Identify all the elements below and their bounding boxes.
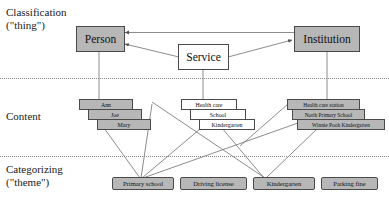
node-person[interactable]: Person xyxy=(76,26,125,52)
node-north-primary-school-label: North Primary School xyxy=(305,112,353,118)
node-service[interactable]: Service xyxy=(178,44,229,70)
diagram-canvas: Classification ("thing") Content Categor… xyxy=(0,0,389,204)
row-label-content: Content xyxy=(6,110,41,123)
row-label-classification-line1: Classification xyxy=(6,6,67,19)
node-kindergarten-theme-label: Kindergarten xyxy=(267,180,302,187)
node-kindergarten-label: Kindergarten xyxy=(212,122,243,128)
divider-content-categorizing xyxy=(0,156,389,157)
row-label-classification: Classification ("thing") xyxy=(6,6,67,32)
node-primary-school[interactable]: Primary school xyxy=(112,177,174,190)
node-primary-school-label: Primary school xyxy=(123,180,163,187)
edge-winnie-kindergarten xyxy=(266,128,318,178)
node-service-label: Service xyxy=(186,51,220,63)
edge-ann-primary-school xyxy=(141,104,152,178)
row-label-categorizing-line1: Categorizing xyxy=(6,163,63,176)
row-label-categorizing-line2: ("theme") xyxy=(6,176,63,189)
node-parking-fine-label: Parking fine xyxy=(333,180,365,187)
node-winnie-pooh-kindergarten-label: Winnie Pooh Kindergarten xyxy=(312,122,370,128)
node-driving-license-label: Driving license xyxy=(193,180,233,187)
node-health-care-label: Health care xyxy=(196,102,223,108)
node-mary-label: Mary xyxy=(118,122,131,128)
node-ann-label: Ann xyxy=(101,102,111,108)
edge-service-institution xyxy=(228,40,292,57)
node-driving-license[interactable]: Driving license xyxy=(180,177,247,190)
edge-kindergarten-kindergarten xyxy=(222,128,264,178)
node-institution-label: Institution xyxy=(303,33,350,45)
node-joe-label: Joe xyxy=(111,112,119,118)
row-label-content-line1: Content xyxy=(6,110,41,123)
node-kindergarten[interactable]: Kindergarten xyxy=(199,119,255,130)
row-label-classification-line2: ("thing") xyxy=(6,19,67,32)
node-school-label: School xyxy=(210,112,226,118)
node-kindergarten-theme[interactable]: Kindergarten xyxy=(253,177,315,190)
node-institution[interactable]: Institution xyxy=(294,26,360,52)
row-label-categorizing: Categorizing ("theme") xyxy=(6,163,63,189)
node-winnie-pooh-kindergarten[interactable]: Winnie Pooh Kindergarten xyxy=(297,119,385,130)
node-person-label: Person xyxy=(85,33,116,45)
edge-mary-primary-school xyxy=(104,128,140,178)
node-mary[interactable]: Mary xyxy=(97,119,151,130)
divider-classification-content xyxy=(0,78,389,79)
node-parking-fine[interactable]: Parking fine xyxy=(321,177,378,190)
edge-service-person xyxy=(125,44,179,57)
node-health-care-station-label: Health care station xyxy=(303,102,343,108)
